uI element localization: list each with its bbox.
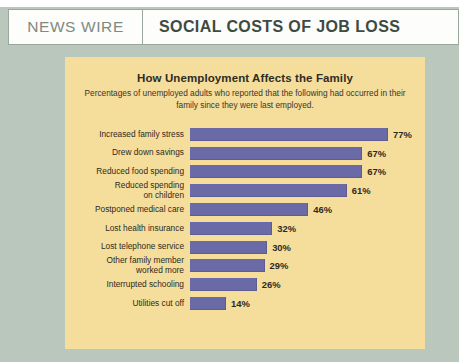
bar-value-label: 14% xyxy=(226,298,250,309)
bar-fill xyxy=(190,165,362,178)
bar-category-label: Lost telephone service xyxy=(65,242,190,252)
bar-track: 26% xyxy=(190,275,425,294)
bar-track: 14% xyxy=(190,294,425,313)
bar-value-label: 67% xyxy=(362,166,386,177)
bar-category-label: Reduced food spending xyxy=(65,167,190,177)
page-root: NEWS WIRE SOCIAL COSTS OF JOB LOSS How U… xyxy=(0,0,459,362)
bar-value-label: 29% xyxy=(265,260,289,271)
bar-track: 30% xyxy=(190,238,425,257)
chart-title: How Unemployment Affects the Family xyxy=(65,57,425,84)
bar-row: Lost health insurance32% xyxy=(65,219,425,238)
bar-row: Increased family stress77% xyxy=(65,125,425,144)
bar-row: Drew down savings67% xyxy=(65,144,425,163)
bar-value-label: 46% xyxy=(308,204,332,215)
bar-category-label: Postponed medical care xyxy=(65,205,190,215)
bar-category-label: Reduced spending on children xyxy=(65,181,190,200)
bar-fill xyxy=(190,222,272,235)
bar-category-label: Increased family stress xyxy=(65,130,190,140)
bar-category-label: Drew down savings xyxy=(65,148,190,158)
bar-category-label: Other family member worked more xyxy=(65,256,190,275)
bar-category-label: Interrupted schooling xyxy=(65,280,190,290)
bar-fill xyxy=(190,184,347,197)
bar-row: Interrupted schooling26% xyxy=(65,275,425,294)
bar-track: 77% xyxy=(190,125,425,144)
bar-value-label: 30% xyxy=(267,242,291,253)
bar-category-label: Utilities cut off xyxy=(65,299,190,309)
bar-track: 67% xyxy=(190,144,425,163)
bar-fill xyxy=(190,147,362,160)
bar-row: Lost telephone service30% xyxy=(65,238,425,257)
bar-fill xyxy=(190,241,267,254)
bar-fill xyxy=(190,128,388,141)
bar-row: Reduced spending on children61% xyxy=(65,181,425,200)
bar-fill xyxy=(190,297,226,310)
bar-track: 29% xyxy=(190,257,425,276)
chart-panel: How Unemployment Affects the Family Perc… xyxy=(65,57,425,349)
bar-track: 32% xyxy=(190,219,425,238)
bar-value-label: 61% xyxy=(347,185,371,196)
bar-row: Reduced food spending67% xyxy=(65,163,425,182)
bar-row: Other family member worked more29% xyxy=(65,257,425,276)
bar-fill xyxy=(190,259,265,272)
bar-chart: Increased family stress77%Drew down savi… xyxy=(65,125,425,313)
chart-subtitle: Percentages of unemployed adults who rep… xyxy=(81,88,409,111)
header-kicker: NEWS WIRE xyxy=(9,10,143,44)
bar-value-label: 67% xyxy=(362,148,386,159)
bar-track: 61% xyxy=(190,181,425,200)
bar-track: 67% xyxy=(190,163,425,182)
bar-value-label: 26% xyxy=(257,279,281,290)
bar-fill xyxy=(190,278,257,291)
bar-row: Utilities cut off14% xyxy=(65,294,425,313)
news-wire-header: NEWS WIRE SOCIAL COSTS OF JOB LOSS xyxy=(8,9,459,45)
bar-category-label: Lost health insurance xyxy=(65,224,190,234)
page-title: SOCIAL COSTS OF JOB LOSS xyxy=(143,10,458,44)
bar-value-label: 77% xyxy=(388,129,412,140)
bar-value-label: 32% xyxy=(272,223,296,234)
bar-track: 46% xyxy=(190,200,425,219)
bar-fill xyxy=(190,203,308,216)
bar-row: Postponed medical care46% xyxy=(65,200,425,219)
